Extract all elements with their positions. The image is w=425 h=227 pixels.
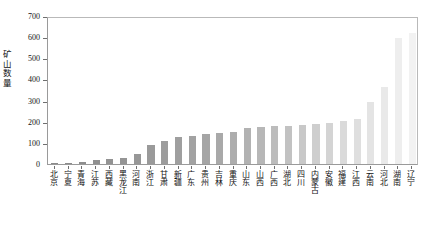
- x-axis-tick-mark: [315, 166, 316, 169]
- chart-root: 0100200300400500600700 矿山数量 北京宁夏青海江苏西藏黑龙…: [0, 0, 425, 227]
- bar: [381, 87, 388, 164]
- x-axis-tick-mark: [68, 166, 69, 169]
- x-axis-tick-mark: [191, 166, 192, 169]
- x-axis-tick-mark: [123, 166, 124, 169]
- x-axis-tick-mark: [356, 166, 357, 169]
- x-axis-tick-mark: [370, 166, 371, 169]
- x-axis-tick-label: 辽宁: [407, 171, 416, 187]
- y-axis-tick-label: 500: [28, 55, 40, 63]
- x-axis-tick-label: 甘肃: [159, 171, 168, 187]
- bar: [354, 119, 361, 164]
- bar: [175, 137, 182, 164]
- x-axis-tick-mark: [260, 166, 261, 169]
- bar: [189, 136, 196, 164]
- y-axis-tick-label: 700: [28, 13, 40, 21]
- x-axis-tick-label: 河南: [132, 171, 141, 187]
- y-axis-title: 矿山数量: [2, 50, 13, 88]
- x-axis-tick-mark: [136, 166, 137, 169]
- x-axis-tick-mark: [301, 166, 302, 169]
- x-axis-tick-label: 四川: [297, 171, 306, 187]
- x-axis-tick-label: 西藏: [104, 171, 113, 187]
- x-axis: 北京宁夏青海江苏西藏黑龙江河南浙江甘肃新疆广东贵州吉林重庆山东山西广西湖北四川内…: [47, 167, 418, 227]
- x-axis-tick-mark: [397, 166, 398, 169]
- x-axis-tick-label: 山西: [255, 171, 264, 187]
- x-axis-tick-mark: [164, 166, 165, 169]
- x-axis-tick-mark: [411, 166, 412, 169]
- bar: [299, 125, 306, 164]
- bar: [244, 128, 251, 164]
- x-axis-tick-label: 福建: [338, 171, 347, 187]
- x-axis-tick-label: 云南: [365, 171, 374, 187]
- bar: [395, 38, 402, 164]
- x-axis-tick-label: 宁夏: [63, 171, 72, 187]
- x-axis-tick-label: 江苏: [91, 171, 100, 187]
- bar: [134, 154, 141, 164]
- y-axis-tick-label: 100: [28, 140, 40, 148]
- x-axis-tick-label: 河北: [379, 171, 388, 187]
- bar: [326, 123, 333, 164]
- bar: [79, 162, 86, 164]
- y-axis-tick-label: 300: [28, 98, 40, 106]
- x-axis-tick-mark: [178, 166, 179, 169]
- x-axis-tick-label: 吉林: [214, 171, 223, 187]
- x-axis-tick-mark: [95, 166, 96, 169]
- x-axis-tick-label: 安徽: [324, 171, 333, 187]
- x-axis-tick-label: 贵州: [201, 171, 210, 187]
- y-axis: 0100200300400500600700: [0, 0, 47, 227]
- y-axis-tick-label: 200: [28, 119, 40, 127]
- x-axis-tick-mark: [109, 166, 110, 169]
- bar: [271, 126, 278, 164]
- x-axis-tick-mark: [219, 166, 220, 169]
- x-axis-tick-mark: [329, 166, 330, 169]
- x-axis-tick-mark: [150, 166, 151, 169]
- x-axis-tick-mark: [233, 166, 234, 169]
- bar: [285, 126, 292, 164]
- x-axis-tick-label: 新疆: [173, 171, 182, 187]
- bar: [340, 121, 347, 164]
- bar: [65, 163, 72, 164]
- y-axis-tick-label: 0: [36, 161, 40, 169]
- x-axis-tick-mark: [342, 166, 343, 169]
- x-axis-tick-mark: [246, 166, 247, 169]
- x-axis-tick-mark: [274, 166, 275, 169]
- bar: [147, 145, 154, 164]
- x-axis-tick-mark: [54, 166, 55, 169]
- bar: [202, 134, 209, 164]
- x-axis-tick-label: 北京: [49, 171, 58, 187]
- plot-area: [47, 17, 418, 165]
- x-axis-tick-label: 广西: [269, 171, 278, 187]
- bar: [216, 133, 223, 164]
- x-axis-tick-label: 黑龙江: [118, 171, 127, 196]
- bars-layer: [48, 18, 417, 164]
- x-axis-tick-label: 山东: [242, 171, 251, 187]
- x-axis-tick-label: 内蒙古: [310, 171, 319, 196]
- x-axis-tick-label: 江西: [352, 171, 361, 187]
- bar: [93, 160, 100, 164]
- bar: [409, 33, 416, 164]
- x-axis-tick-label: 浙江: [146, 171, 155, 187]
- y-axis-tick-label: 400: [28, 76, 40, 84]
- bar: [367, 102, 374, 164]
- bar: [230, 132, 237, 164]
- bar: [312, 124, 319, 164]
- x-axis-tick-mark: [81, 166, 82, 169]
- bar: [51, 163, 58, 164]
- bar: [120, 158, 127, 164]
- x-axis-tick-label: 青海: [77, 171, 86, 187]
- bar: [161, 141, 168, 164]
- bar: [106, 159, 113, 164]
- x-axis-tick-mark: [205, 166, 206, 169]
- x-axis-tick-label: 湖北: [283, 171, 292, 187]
- x-axis-tick-label: 广东: [187, 171, 196, 187]
- x-axis-tick-mark: [287, 166, 288, 169]
- x-axis-tick-label: 重庆: [228, 171, 237, 187]
- x-axis-tick-label: 湖南: [393, 171, 402, 187]
- bar: [257, 127, 264, 164]
- y-axis-tick-label: 600: [28, 34, 40, 42]
- x-axis-tick-mark: [384, 166, 385, 169]
